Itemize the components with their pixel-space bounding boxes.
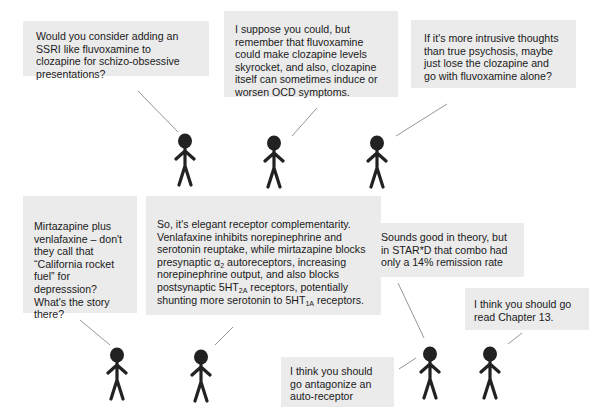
stick-figure-3 — [362, 135, 392, 189]
pointer-b8 — [399, 358, 416, 369]
bubble-text: So, it's elegant receptor complementarit… — [157, 218, 371, 306]
pointer-b5 — [215, 327, 233, 345]
stick-figure-4 — [102, 347, 132, 401]
text-segment: receptors. — [314, 294, 364, 306]
bubble-text: If it's more intrusive thoughts than tru… — [424, 32, 563, 82]
stick-figure-7 — [475, 346, 505, 400]
bubble-text: I think you should go read Chapter 13. — [474, 298, 580, 323]
bubble-text: Would you consider adding an SSRI like f… — [36, 30, 196, 80]
stick-figure-2 — [259, 135, 289, 189]
pointer-b4 — [80, 320, 110, 345]
speech-bubble-1: Would you consider adding an SSRI like f… — [23, 21, 209, 76]
speech-bubble-2: I suppose you could, but remember that f… — [224, 11, 398, 97]
speech-bubble-8: I think you should go antagonize an auto… — [281, 357, 394, 407]
stick-figure-5 — [186, 349, 216, 403]
pointer-b7 — [508, 333, 522, 344]
stick-figure-6 — [415, 346, 445, 400]
pointer-b1 — [138, 91, 178, 132]
speech-bubble-3: If it's more intrusive thoughts than tru… — [411, 20, 576, 88]
speech-bubble-4: Mirtazapine plus venlafaxine – don't the… — [23, 196, 137, 313]
subscript: 1A — [305, 300, 314, 307]
bubble-text: I suppose you could, but remember that f… — [235, 23, 387, 99]
pointer-b2 — [292, 108, 317, 136]
bubble-text: Mirtazapine plus venlafaxine – don't the… — [34, 220, 126, 321]
pointer-b3 — [396, 104, 447, 136]
speech-bubble-6: Sounds good in theory, but in STAR*D tha… — [370, 223, 524, 277]
bubble-text: I think you should go antagonize an auto… — [290, 365, 386, 403]
speech-bubble-5: So, it's elegant receptor complementarit… — [146, 196, 381, 315]
stick-figure-1 — [170, 133, 200, 187]
speech-bubble-7: I think you should go read Chapter 13. — [465, 288, 589, 330]
pointer-b6 — [398, 283, 424, 338]
bubble-text: Sounds good in theory, but in STAR*D tha… — [381, 231, 513, 269]
